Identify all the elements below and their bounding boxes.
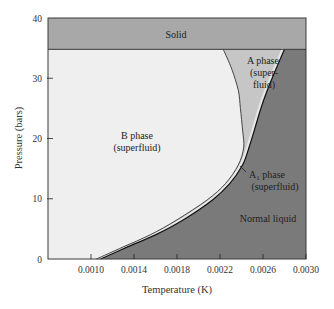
y-tick-label: 30 <box>33 74 43 84</box>
b-phase-label-line2: (superfluid) <box>113 142 160 154</box>
normal-liquid-label: Normal liquid <box>240 213 296 224</box>
x-tick-label: 0.0010 <box>78 265 104 275</box>
phase-diagram: 0.00100.00140.00180.00220.00260.0030 010… <box>0 0 334 309</box>
y-axis-title: Pressure (bars) <box>13 106 25 169</box>
b-phase-label-line1: B phase <box>121 130 154 141</box>
y-tick-label: 20 <box>33 134 43 144</box>
a-phase-label-line3: fluid) <box>253 79 275 91</box>
a1-phase-label-line2: (superfluid) <box>251 181 298 193</box>
x-tick-label: 0.0030 <box>293 265 319 275</box>
x-tick-label: 0.0026 <box>250 265 276 275</box>
a-phase-label-line2: (super- <box>250 67 278 79</box>
a-phase-label-line1: A phase <box>247 55 280 66</box>
solid-label: Solid <box>165 29 186 40</box>
x-tick-label: 0.0018 <box>164 265 190 275</box>
y-tick-label: 10 <box>33 194 43 204</box>
a1-phase-rest: phase <box>260 169 286 180</box>
y-tick-label: 40 <box>33 14 43 24</box>
x-axis-title: Temperature (K) <box>142 284 213 296</box>
y-tick-label: 0 <box>37 255 42 265</box>
x-tick-label: 0.0014 <box>121 265 147 275</box>
x-tick-label: 0.0022 <box>207 265 233 275</box>
